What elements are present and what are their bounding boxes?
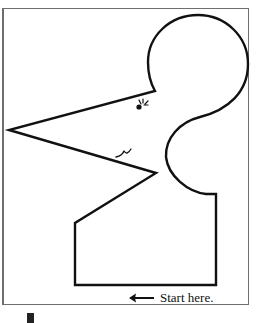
mouse-outline-path <box>9 15 248 285</box>
left-arrow-icon <box>128 292 154 304</box>
eye-icon <box>136 104 141 109</box>
eyelashes-icon <box>139 99 148 105</box>
start-here-label: Start here. <box>160 290 213 306</box>
mouth-icon <box>116 149 131 157</box>
start-here-caption: Start here. <box>128 290 213 306</box>
mouse-outline-drawing <box>0 0 256 323</box>
page-edge-marker <box>27 313 34 323</box>
